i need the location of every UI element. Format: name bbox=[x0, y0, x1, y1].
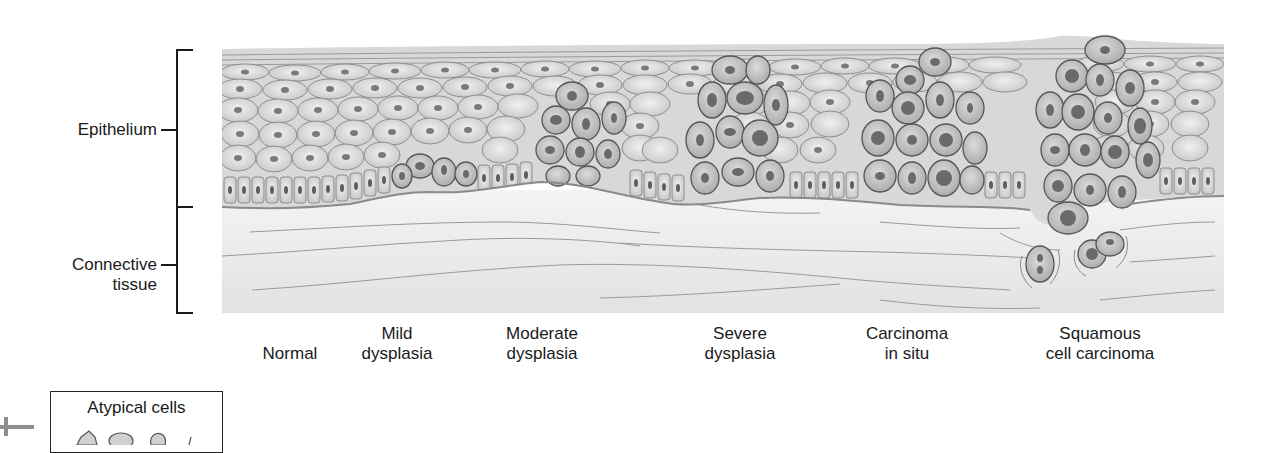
connective-label-line2: tissue bbox=[72, 275, 157, 295]
stage-label-line1: Severe bbox=[650, 324, 830, 344]
epithelium-label: Epithelium bbox=[78, 120, 157, 140]
legend-title: Atypical cells bbox=[51, 398, 222, 418]
legend-box: Atypical cells bbox=[50, 391, 223, 453]
stage-label-squamous-cell-carcinoma: Squamous cell carcinoma bbox=[1000, 324, 1200, 364]
connective-tissue-label: Connective tissue bbox=[72, 255, 157, 295]
epithelium-label-text: Epithelium bbox=[78, 120, 157, 139]
stage-label-severe: Severe dysplasia bbox=[650, 324, 830, 364]
stage-label-carcinoma-in-situ: Carcinoma in situ bbox=[817, 324, 997, 364]
stage-label-line1: Carcinoma bbox=[817, 324, 997, 344]
atypical-cell-icons bbox=[71, 425, 211, 445]
stage-label-line2: cell carcinoma bbox=[1000, 344, 1200, 364]
stage-label-line2: dysplasia bbox=[650, 344, 830, 364]
layer-bracket bbox=[161, 50, 193, 313]
stage-label-moderate: Moderate dysplasia bbox=[452, 324, 632, 364]
stage-label-line2: in situ bbox=[817, 344, 997, 364]
stage-label-line2: dysplasia bbox=[452, 344, 632, 364]
stage-label-line1: Moderate bbox=[452, 324, 632, 344]
stray-mark bbox=[0, 415, 45, 436]
stage-label-line1: Squamous bbox=[1000, 324, 1200, 344]
connective-label-line1: Connective bbox=[72, 255, 157, 275]
